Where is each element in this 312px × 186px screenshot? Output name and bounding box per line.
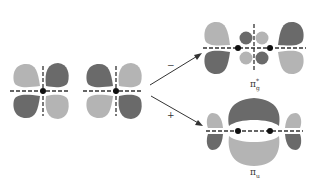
plus-sign-label: + bbox=[167, 110, 175, 120]
pi-u-label: πu bbox=[250, 167, 260, 179]
arrow-antibonding bbox=[150, 53, 202, 85]
atomic-orbital-1 bbox=[10, 63, 70, 119]
arrow-bonding bbox=[151, 96, 203, 126]
pi-u-orbital bbox=[206, 98, 303, 166]
pi-u-sub: u bbox=[256, 172, 260, 179]
atomic-orbital-2 bbox=[83, 63, 143, 119]
orbital-diagram bbox=[0, 0, 312, 186]
pi-g-star-sub: g bbox=[256, 84, 260, 91]
pi-g-star-label: π*g bbox=[250, 77, 260, 91]
pi-g-star-sup: * bbox=[256, 77, 259, 84]
pi-g-star-orbital bbox=[203, 22, 306, 74]
minus-sign-label: − bbox=[167, 60, 175, 70]
